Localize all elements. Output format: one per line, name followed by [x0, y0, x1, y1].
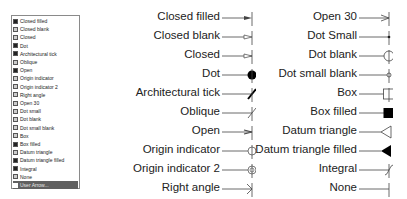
arrowhead-label-dot-small-blank: Dot small blank	[278, 67, 357, 79]
open-icon	[13, 68, 18, 73]
list-item-label: Closed blank	[20, 26, 49, 32]
origin-indicator-2-icon	[13, 84, 18, 89]
list-item-label: Open	[20, 67, 32, 73]
none-icon	[13, 174, 18, 179]
list-item-label: Origin indicator 2	[20, 84, 58, 90]
right-angle-icon	[13, 92, 18, 97]
arrowhead-label-dot-small: Dot Small	[307, 29, 357, 41]
arrowhead-label-origin-indicator: Origin indicator	[143, 143, 220, 155]
arrowhead-label-datum-triangle-filled: Datum triangle filled	[255, 143, 357, 155]
arrowhead-label-none: None	[330, 181, 358, 193]
arrowhead-label-closed-blank: Closed blank	[154, 29, 220, 41]
arrowhead-label-right-angle: Right angle	[162, 181, 220, 193]
arrowhead-label-oblique: Oblique	[180, 105, 220, 117]
architectural-tick-icon	[13, 51, 18, 56]
list-item-label: Datum triangle	[20, 149, 53, 155]
list-item-label: Dot small	[20, 108, 41, 114]
list-item-label: Architectural tick	[20, 51, 57, 57]
dot-small-blank-icon	[13, 125, 18, 130]
list-item-none[interactable]: None	[13, 173, 78, 181]
arrowhead-label-closed: Closed	[184, 48, 220, 60]
list-item-label: Oblique	[20, 59, 37, 65]
list-item-label: Dot blank	[20, 116, 41, 122]
dot-blank-icon	[13, 117, 18, 122]
list-item-dot[interactable]: Dot	[13, 42, 78, 50]
list-item-label: Integral	[20, 166, 37, 172]
arrowhead-label-closed-filled: Closed filled	[157, 10, 220, 22]
closed-blank-icon	[13, 27, 18, 32]
user-arrow-icon	[13, 183, 18, 188]
list-item-dot-small[interactable]: Dot small	[13, 107, 78, 115]
arrowhead-label-integral: Integral	[319, 162, 357, 174]
arrowhead-label-open: Open	[192, 124, 220, 136]
list-item-dot-blank[interactable]: Dot blank	[13, 115, 78, 123]
arrowhead-listbox[interactable]: Closed filledClosed blankClosedDotArchit…	[11, 15, 80, 189]
arrowhead-label-open-30: Open 30	[313, 10, 357, 22]
list-item-datum-triangle[interactable]: Datum triangle	[13, 148, 78, 156]
arrowhead-label-box-filled: Box filled	[310, 105, 357, 117]
list-item-dot-small-blank[interactable]: Dot small blank	[13, 124, 78, 132]
list-item-box-filled[interactable]: Box filled	[13, 140, 78, 148]
list-item-label: Dot small blank	[20, 125, 54, 131]
list-item-closed-filled[interactable]: Closed filled	[13, 17, 78, 25]
list-item-label: User Arrow...	[20, 182, 49, 188]
box-icon	[13, 133, 18, 138]
list-item-label: Open 30	[20, 100, 39, 106]
list-item-closed-blank[interactable]: Closed blank	[13, 25, 78, 33]
list-item-label: Datum triangle filled	[20, 157, 64, 163]
list-item-label: Right angle	[20, 92, 45, 98]
list-item-label: Origin indicator	[20, 75, 54, 81]
list-item-open-30[interactable]: Open 30	[13, 99, 78, 107]
list-item-oblique[interactable]: Oblique	[13, 58, 78, 66]
dot-icon	[13, 43, 18, 48]
list-item-integral[interactable]: Integral	[13, 165, 78, 173]
arrowhead-label-dot-blank: Dot blank	[308, 48, 357, 60]
closed-icon	[13, 35, 18, 40]
list-item-closed[interactable]: Closed	[13, 33, 78, 41]
arrowhead-label-architectural-tick: Architectural tick	[136, 86, 220, 98]
list-item-box[interactable]: Box	[13, 132, 78, 140]
list-item-open[interactable]: Open	[13, 66, 78, 74]
list-item-label: Dot	[20, 43, 28, 49]
open-30-icon	[13, 101, 18, 106]
box-filled-icon	[13, 142, 18, 147]
integral-icon	[13, 166, 18, 171]
list-item-right-angle[interactable]: Right angle	[13, 91, 78, 99]
datum-triangle-filled-icon	[13, 158, 18, 163]
list-item-label: None	[20, 174, 32, 180]
list-item-origin-indicator[interactable]: Origin indicator	[13, 74, 78, 82]
arrowhead-label-origin-indicator-2: Origin indicator 2	[133, 162, 220, 174]
arrowhead-label-box: Box	[337, 86, 357, 98]
arrowhead-label-datum-triangle: Datum triangle	[282, 124, 357, 136]
none-arrowhead-icon	[359, 180, 393, 199]
right-angle-arrowhead-icon	[222, 180, 256, 199]
dot-small-icon	[13, 109, 18, 114]
list-item-label: Box	[20, 133, 29, 139]
list-item-label: Closed filled	[20, 18, 47, 24]
origin-indicator-icon	[13, 76, 18, 81]
list-item-architectural-tick[interactable]: Architectural tick	[13, 50, 78, 58]
list-item-datum-triangle-filled[interactable]: Datum triangle filled	[13, 156, 78, 164]
list-item-label: Closed	[20, 34, 36, 40]
list-item-label: Box filled	[20, 141, 40, 147]
list-item-user-arrow[interactable]: User Arrow...	[13, 181, 78, 189]
closed-filled-icon	[13, 19, 18, 24]
list-item-origin-indicator-2[interactable]: Origin indicator 2	[13, 83, 78, 91]
arrowhead-label-dot: Dot	[202, 67, 220, 79]
datum-triangle-icon	[13, 150, 18, 155]
oblique-icon	[13, 60, 18, 65]
